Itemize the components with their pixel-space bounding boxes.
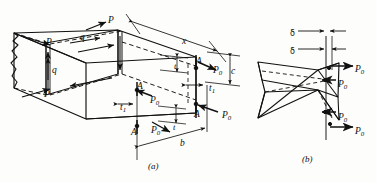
force-P0-b-outer-top-subscript: 0	[361, 68, 364, 75]
force-P0-mid-left: P0	[150, 96, 159, 107]
wall-thickness-t1-right-subscript: 1	[212, 87, 215, 94]
deflection-delta-lower: δ	[290, 48, 295, 56]
force-P0-b-inner-bot-subscript: 0	[344, 116, 347, 123]
width-b: b	[180, 139, 185, 149]
thickness-line-t-lower-a	[158, 106, 186, 109]
node-dot-b-lower-mid	[323, 110, 326, 113]
node-dot-bot-right	[194, 102, 198, 106]
force-P0-upper-right-subscript: 0	[219, 69, 222, 76]
wall-thickness-t1-right: t1	[209, 84, 215, 95]
force-P0-lower-right: P0	[222, 111, 231, 122]
force-P0-b-inner-top: P0	[338, 80, 347, 91]
shear-flow-q-side: q	[52, 66, 57, 76]
force-P0-bottom-left: P0	[151, 126, 160, 137]
wall-thickness-t1-left: t1	[120, 103, 126, 114]
panel-caption-b: (b)	[302, 155, 313, 164]
force-P0-lower-right-subscript: 0	[228, 114, 231, 121]
extension-line-c-top	[207, 52, 240, 56]
force-P0-bottom-left-subscript: 0	[157, 129, 160, 136]
thickness-line-t-lower-b	[158, 121, 186, 124]
section-A-mid-right: A	[194, 110, 200, 120]
shear-arrow-inner-top	[78, 45, 114, 52]
force-arrow-P0-lower-right	[198, 105, 218, 112]
load-P-left-upper: P	[46, 38, 52, 48]
dimension-line-x	[133, 22, 217, 51]
extension-line-x-end	[209, 41, 226, 62]
section-A-bottom: A	[131, 128, 137, 138]
section-A-top-right: A	[196, 57, 202, 67]
cut-inner-bottom-edge	[46, 74, 118, 95]
section-A-mid-left: A	[137, 82, 143, 92]
shear-arrow-inner-left	[70, 78, 112, 86]
thickness-line-t-upper-a	[160, 55, 188, 58]
figure-canvas	[0, 0, 377, 182]
deflection-delta-upper: δ	[290, 30, 295, 38]
load-P-left-lower: P	[44, 90, 50, 100]
node-dot-top-right	[194, 66, 198, 70]
thickness-t-upper: t	[174, 62, 176, 71]
hidden-lines-group	[14, 31, 196, 100]
panel-caption-a: (a)	[148, 162, 159, 171]
shear-flow-arrow-q-top	[70, 38, 100, 43]
force-P0-b-inner-bot: P0	[338, 113, 347, 124]
thickness-t-lower: t	[173, 123, 175, 132]
load-P-top-right: P	[108, 16, 114, 26]
depth-c: c	[231, 67, 235, 77]
length-x: x	[182, 37, 186, 47]
dimension-line-b	[139, 128, 205, 146]
node-dot-b-top	[327, 66, 330, 69]
panel-a-box-beam	[11, 14, 240, 160]
force-P0-b-outer-bot-subscript: 0	[361, 130, 364, 137]
hidden-line-inner-far	[50, 31, 122, 44]
force-P0-b-outer-top: P0	[355, 65, 364, 76]
node-dot-b-bot	[328, 122, 331, 125]
shear-flow-q-top: q	[80, 33, 85, 43]
force-P0-b-outer-bot: P0	[355, 127, 364, 138]
load-arrow-P-top-right	[86, 22, 106, 30]
force-P0-mid-left-subscript: 0	[156, 99, 159, 106]
force-P0-b-inner-top-subscript: 0	[344, 83, 347, 90]
deformed-outline-main	[258, 62, 339, 118]
force-P0-upper-right: P0	[213, 66, 222, 77]
node-dot-b-upper-mid	[323, 78, 326, 81]
wall-thickness-t1-left-subscript: 1	[123, 106, 126, 113]
